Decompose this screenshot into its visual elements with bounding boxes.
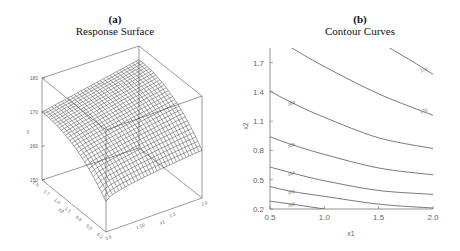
y-tick-label: 1.7 bbox=[253, 59, 265, 68]
contour-label: 162 bbox=[287, 188, 296, 195]
contour-label: 166 bbox=[287, 141, 296, 148]
z-tick-label: 180 bbox=[30, 75, 39, 81]
x1-tick-label: 1.00 bbox=[136, 222, 146, 230]
mesh-line-x2 bbox=[72, 91, 168, 144]
contour-label: 160 bbox=[287, 201, 296, 208]
x2-tick-label: 0.2 bbox=[96, 232, 104, 240]
mesh-line-x1 bbox=[133, 63, 196, 153]
x2-tick-label: 1.7 bbox=[43, 189, 51, 197]
x2-tick-label: 0.8 bbox=[75, 215, 83, 223]
x1-axis-label: x1 bbox=[159, 218, 166, 226]
mesh-line-x1 bbox=[126, 67, 189, 157]
y-tick-label: 1.1 bbox=[253, 117, 265, 126]
x1-tick-label: 2.0 bbox=[201, 200, 209, 207]
z-tick-label: 170 bbox=[30, 109, 39, 115]
contour-plot: 0.51.01.52.00.20.50.81.11.41.7x1x2160162… bbox=[242, 48, 439, 237]
contour-label: 168 bbox=[287, 100, 296, 107]
x-tick-label: 1.0 bbox=[319, 213, 331, 222]
mesh-line-x1 bbox=[136, 61, 199, 152]
y-tick-label: 0.5 bbox=[253, 176, 265, 185]
x2-tick-label: 0.5 bbox=[85, 223, 93, 231]
x-tick-label: 2.0 bbox=[427, 213, 439, 222]
response-surface-plot: 150160170180y2.01.71.41.10.80.50.2x20.51… bbox=[27, 46, 209, 241]
contour-line-166 bbox=[270, 137, 433, 175]
surface-mesh bbox=[42, 60, 202, 202]
x1-tick-label: 0.5 bbox=[105, 234, 113, 241]
contour-line-160 bbox=[270, 201, 324, 209]
x-tick-label: 0.5 bbox=[264, 213, 276, 222]
contour-label: 172 bbox=[419, 66, 428, 73]
contour-line-170 bbox=[292, 48, 433, 115]
mesh-line-x2 bbox=[48, 65, 145, 118]
contour-line-168 bbox=[270, 91, 433, 149]
mesh-line-x1 bbox=[120, 70, 183, 159]
mesh-line-x2 bbox=[95, 129, 191, 181]
axis-x1 bbox=[106, 198, 202, 232]
contour-lines bbox=[270, 48, 433, 209]
box-edge bbox=[139, 148, 202, 198]
mesh-line-x2 bbox=[78, 100, 174, 153]
x2-tick-label: 2.0 bbox=[32, 180, 40, 188]
y-tick-label: 0.2 bbox=[253, 205, 265, 214]
x-axis-label: x1 bbox=[347, 230, 355, 237]
x-tick-label: 1.5 bbox=[373, 213, 385, 222]
x2-tick-label: 1.1 bbox=[64, 206, 72, 214]
z-axis-label: y bbox=[27, 128, 30, 134]
x2-axis-label: x2 bbox=[57, 206, 65, 214]
figure-canvas: 150160170180y2.01.71.41.10.80.50.2x20.51… bbox=[0, 0, 460, 251]
mesh-line-x2 bbox=[68, 85, 165, 138]
y-tick-label: 1.4 bbox=[253, 88, 265, 97]
y-tick-label: 0.8 bbox=[253, 146, 265, 155]
axis-x2 bbox=[42, 180, 106, 232]
x1-tick-label: 1.5 bbox=[169, 211, 177, 218]
contour-label: 164 bbox=[287, 170, 296, 177]
z-tick-label: 160 bbox=[30, 143, 39, 149]
x2-tick-label: 1.4 bbox=[53, 197, 61, 205]
mesh-line-x2 bbox=[106, 150, 202, 201]
mesh-line-x2 bbox=[51, 67, 148, 120]
y-axis-label: x2 bbox=[242, 122, 249, 130]
